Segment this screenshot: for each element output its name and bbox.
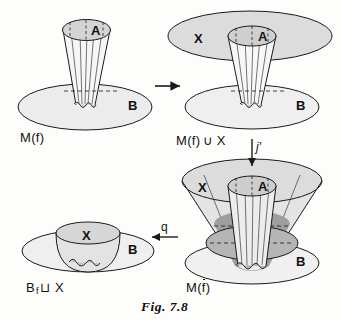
- label-set-b-bottom-left: B: [128, 242, 137, 257]
- label-set-b-top-left: B: [128, 98, 137, 113]
- figure-7-8-diagram: [0, 0, 340, 320]
- union-symbol: ∪: [200, 133, 216, 148]
- overline-bar: [203, 279, 205, 280]
- label-mf: M(f): [20, 130, 44, 145]
- arrow-label-q: q: [161, 220, 168, 234]
- label-mf-union-x-suffix: X: [217, 133, 226, 148]
- label-mf-union-x-prefix: M(f): [176, 133, 200, 148]
- label-set-a-bottom-right: A: [258, 179, 267, 194]
- label-set-b-top-right: B: [296, 98, 305, 113]
- arrow-label-jprime: j′: [256, 140, 261, 154]
- label-set-x-top-right: X: [194, 31, 203, 46]
- label-fbar-letter: f: [202, 280, 206, 295]
- label-mfbar: M(f): [186, 280, 210, 295]
- label-set-a-top-right: A: [258, 29, 267, 44]
- label-b-letter: B: [26, 280, 35, 295]
- label-b-sqcup-x: Bf⊔X: [26, 280, 64, 296]
- label-mf-union-x: M(f)∪X: [176, 133, 226, 148]
- label-set-b-bottom-right: B: [296, 254, 305, 269]
- label-set-a-top-left: A: [91, 23, 100, 38]
- figure-caption: Fig. 7.8: [141, 299, 188, 315]
- label-x-letter: X: [50, 280, 64, 295]
- label-set-x-bottom-right: X: [198, 180, 207, 195]
- sqcup-symbol: ⊔: [40, 280, 50, 295]
- label-mfbar-prefix: M(: [186, 280, 202, 295]
- fbar-overline-group: f: [202, 280, 206, 295]
- label-mfbar-suffix: ): [206, 280, 211, 295]
- label-set-x-bowl: X: [82, 228, 91, 243]
